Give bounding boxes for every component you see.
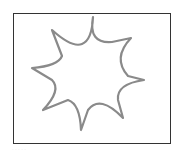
figure-caption: · · · · · (12, 146, 26, 152)
eight-point-star-icon (0, 0, 179, 152)
